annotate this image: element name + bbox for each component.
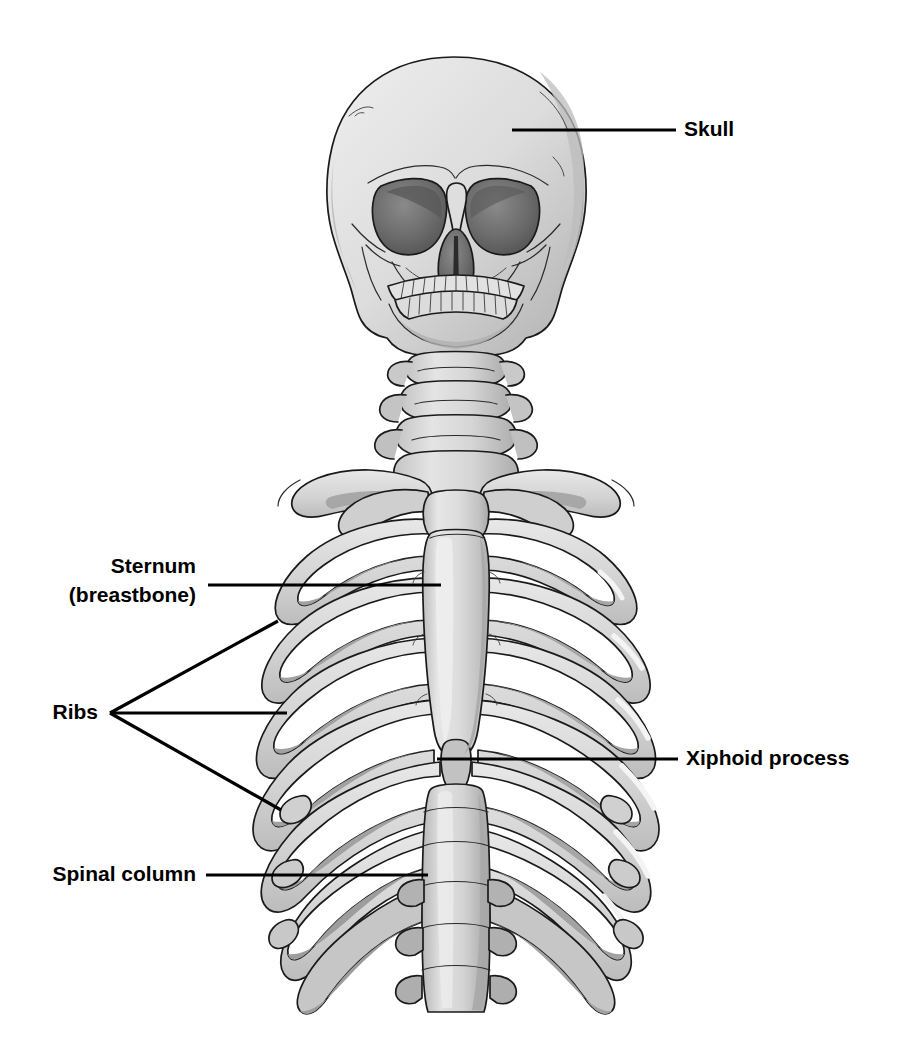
label-skull: Skull xyxy=(684,117,734,140)
label-sternum-line1: Sternum xyxy=(111,554,196,577)
skeleton-illustration: Skull Sternum (breastbone) Ribs Xiphoid … xyxy=(0,0,913,1052)
skull-group xyxy=(327,57,586,357)
label-spinal-column: Spinal column xyxy=(52,862,196,885)
anatomy-figure: Skull Sternum (breastbone) Ribs Xiphoid … xyxy=(0,0,913,1052)
label-sternum-line2: (breastbone) xyxy=(69,583,196,606)
label-xiphoid-process: Xiphoid process xyxy=(686,746,849,769)
sternum-body xyxy=(423,530,489,759)
label-ribs: Ribs xyxy=(52,700,98,723)
